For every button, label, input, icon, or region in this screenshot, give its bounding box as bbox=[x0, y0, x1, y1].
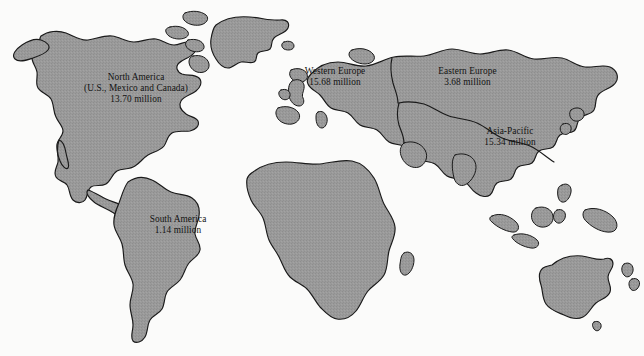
landmass-south-america bbox=[114, 178, 200, 343]
island-java bbox=[512, 234, 539, 248]
world-map-graphic bbox=[0, 0, 644, 356]
region-label-eastern-europe-value: 3.68 million bbox=[395, 77, 540, 88]
region-label-western-europe: Western Europe 15.68 million bbox=[265, 66, 405, 88]
region-label-eastern-europe: Eastern Europe 3.68 million bbox=[395, 66, 540, 88]
island-scandinavia-detail bbox=[349, 49, 374, 64]
region-label-north-america: North America (U.S., Mexico and Canada) … bbox=[36, 72, 236, 106]
region-label-north-america-value: 13.70 million bbox=[36, 94, 236, 105]
island-borneo bbox=[531, 207, 553, 227]
island-sulawesi bbox=[554, 209, 566, 223]
island-new-zealand-south bbox=[629, 278, 640, 290]
region-label-asia-pacific-line1: Asia-Pacific bbox=[440, 126, 580, 137]
island-tasmania bbox=[593, 321, 602, 330]
landmass-australia bbox=[539, 256, 613, 319]
region-label-north-america-line2: (U.S., Mexico and Canada) bbox=[36, 83, 236, 94]
region-label-south-america: South America 1.14 million bbox=[108, 214, 248, 236]
island-arctic-2 bbox=[166, 26, 189, 39]
island-greenland-east-tip bbox=[282, 41, 294, 50]
island-new-zealand-north bbox=[622, 263, 633, 277]
island-madagascar bbox=[400, 252, 414, 275]
landmass-north-america bbox=[32, 31, 201, 202]
region-label-south-america-value: 1.14 million bbox=[108, 225, 248, 236]
region-label-north-america-line1: North America bbox=[36, 72, 236, 83]
island-italy bbox=[316, 111, 327, 128]
region-label-asia-pacific: Asia-Pacific 15.34 million bbox=[440, 126, 580, 148]
world-region-map: North America (U.S., Mexico and Canada) … bbox=[0, 0, 644, 356]
island-ireland bbox=[279, 89, 290, 99]
island-iberia bbox=[276, 107, 300, 125]
island-philippines bbox=[558, 184, 571, 202]
landmass-africa bbox=[247, 160, 395, 319]
region-label-western-europe-line1: Western Europe bbox=[265, 66, 405, 77]
region-label-eastern-europe-line1: Eastern Europe bbox=[395, 66, 540, 77]
island-new-guinea bbox=[583, 208, 617, 232]
region-label-asia-pacific-value: 15.34 million bbox=[440, 137, 580, 148]
island-baffin bbox=[189, 55, 209, 72]
region-label-western-europe-value: 15.68 million bbox=[265, 77, 405, 88]
island-arctic-1 bbox=[183, 11, 208, 25]
island-japan bbox=[570, 108, 585, 121]
island-sumatra bbox=[490, 214, 519, 232]
region-label-south-america-line1: South America bbox=[108, 214, 248, 225]
landmass-greenland bbox=[211, 17, 289, 68]
